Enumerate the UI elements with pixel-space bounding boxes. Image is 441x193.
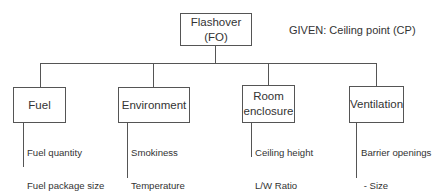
list-item: - Size bbox=[361, 180, 431, 191]
ventilation-box: Ventilation bbox=[349, 86, 404, 123]
environment-title: Environment bbox=[122, 98, 187, 113]
root-connector bbox=[215, 46, 216, 63]
room-title-line2: enclosure bbox=[244, 104, 294, 119]
branch-bar bbox=[40, 63, 377, 64]
fuel-connector bbox=[40, 63, 41, 87]
environment-connector bbox=[153, 63, 154, 87]
fuel-list-line bbox=[23, 123, 24, 167]
given-note: GIVEN: Ceiling point (CP) bbox=[289, 24, 416, 36]
list-item: Temperature bbox=[131, 180, 201, 191]
flashover-root-box: Flashover (FO) bbox=[180, 13, 252, 46]
room-list-line bbox=[251, 123, 252, 157]
root-label-line2: (FO) bbox=[204, 30, 228, 45]
room-title-line1: Room bbox=[253, 89, 284, 104]
list-item: Fuel package size bbox=[27, 180, 104, 191]
fuel-factor-list: Fuel quantity Fuel package size Interior… bbox=[27, 125, 104, 193]
ventilation-factor-list: Barrier openings - Size - Location HVAC … bbox=[361, 125, 431, 193]
room-enclosure-box: Room enclosure bbox=[242, 85, 295, 123]
list-item: L/W Ratio bbox=[255, 180, 324, 191]
ventilation-title: Ventilation bbox=[350, 97, 403, 112]
environment-box: Environment bbox=[118, 87, 190, 123]
ventilation-list-line bbox=[356, 123, 357, 178]
list-item: Fuel quantity bbox=[27, 147, 104, 158]
room-factor-list: Ceiling height L/W Ratio Room insulation bbox=[255, 125, 324, 193]
environment-list-line bbox=[127, 123, 128, 178]
fuel-title: Fuel bbox=[28, 98, 50, 113]
list-item: Barrier openings bbox=[361, 147, 431, 158]
list-item: Smokiness bbox=[131, 147, 201, 158]
ventilation-connector bbox=[376, 63, 377, 86]
fuel-box: Fuel bbox=[13, 87, 66, 123]
root-label-line1: Flashover bbox=[191, 15, 242, 30]
room-connector bbox=[268, 63, 269, 85]
environment-factor-list: Smokiness Temperature Radiant heat Trans… bbox=[131, 125, 201, 193]
list-item: Ceiling height bbox=[255, 147, 324, 158]
